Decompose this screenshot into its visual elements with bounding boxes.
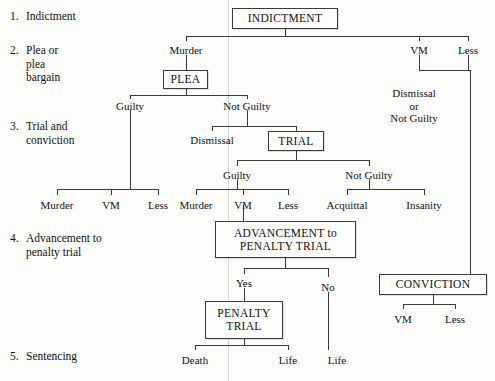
label-insanity: Insanity bbox=[406, 199, 441, 212]
plea-box: PLEA bbox=[163, 70, 208, 89]
label-murder-plea-guilty: Murder bbox=[41, 199, 74, 212]
label-vm-conviction: VM bbox=[394, 313, 412, 326]
label-vm-plea-guilty: VM bbox=[102, 199, 120, 212]
stage-number-1: 1. bbox=[10, 10, 19, 24]
label-less-trial-guilty: Less bbox=[278, 199, 298, 212]
label-not-guilty-plea: Not Guilty bbox=[223, 100, 270, 113]
flowchart-page: 1.Indictment2.Plea or plea bargain3.Tria… bbox=[0, 0, 495, 381]
indictment-box: INDICTMENT bbox=[232, 8, 338, 29]
trial-box: TRIAL bbox=[268, 131, 324, 151]
label-less-conviction: Less bbox=[445, 313, 465, 326]
stage-label-4: Advancement to penalty trial bbox=[26, 232, 102, 259]
label-less-plea-guilty: Less bbox=[148, 199, 168, 212]
label-dismissal-trial: Dismissal bbox=[190, 134, 233, 147]
label-vm-trial-guilty: VM bbox=[234, 199, 252, 212]
stage-number-5: 5. bbox=[10, 350, 19, 364]
label-no-advancement: No bbox=[321, 281, 334, 294]
label-death: Death bbox=[182, 354, 208, 367]
label-yes-advancement: Yes bbox=[236, 277, 252, 290]
stage-number-2: 2. bbox=[10, 44, 19, 58]
stage-label-3: Trial and conviction bbox=[26, 120, 75, 147]
label-vm-indictment: VM bbox=[410, 44, 428, 57]
stage-label-2: Plea or plea bargain bbox=[26, 44, 60, 85]
label-acquittal: Acquittal bbox=[327, 199, 368, 212]
penalty-trial-box: PENALTY TRIAL bbox=[205, 301, 283, 339]
label-guilty-plea: Guilty bbox=[116, 100, 144, 113]
stage-label-5: Sentencing bbox=[26, 350, 77, 364]
label-dismissal-or-not-guilty: Dismissal or Not Guilty bbox=[390, 87, 437, 125]
label-less-indictment: Less bbox=[458, 44, 478, 57]
stage-number-3: 3. bbox=[10, 120, 19, 134]
stage-number-4: 4. bbox=[10, 232, 19, 246]
label-life-penalty: Life bbox=[279, 354, 297, 367]
label-guilty-trial: Guilty bbox=[223, 169, 251, 182]
stage-label-1: Indictment bbox=[26, 10, 76, 24]
label-life-no: Life bbox=[328, 354, 346, 367]
label-murder-trial-guilty: Murder bbox=[180, 199, 213, 212]
advancement-box: ADVANCEMENT to PENALTY TRIAL bbox=[215, 221, 356, 258]
conviction-box: CONVICTION bbox=[379, 274, 487, 295]
label-murder-indictment: Murder bbox=[170, 44, 203, 57]
label-not-guilty-trial: Not Guilty bbox=[345, 169, 392, 182]
